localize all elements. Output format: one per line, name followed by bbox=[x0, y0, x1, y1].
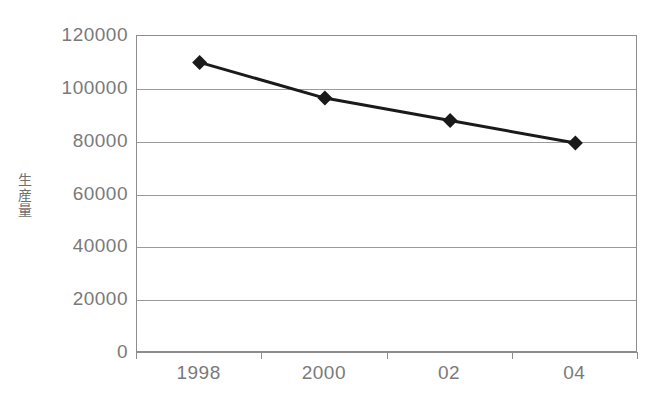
y-tick-label: 0 bbox=[28, 341, 128, 363]
y-tick-label: 100000 bbox=[28, 77, 128, 99]
y-axis-tick-labels: 020000400006000080000100000120000 bbox=[28, 0, 128, 412]
x-tick-mark bbox=[387, 352, 388, 359]
data-point-marker bbox=[192, 55, 207, 70]
y-tick-label: 20000 bbox=[28, 288, 128, 310]
data-point-marker bbox=[443, 113, 458, 128]
series-line-group bbox=[137, 36, 638, 353]
data-point-marker bbox=[568, 135, 583, 150]
data-point-marker bbox=[317, 91, 332, 106]
y-tick-label: 60000 bbox=[28, 183, 128, 205]
line-chart: 生産量 020000400006000080000100000120000 19… bbox=[0, 0, 660, 412]
x-tick-label: 02 bbox=[438, 362, 460, 384]
y-tick-label: 120000 bbox=[28, 24, 128, 46]
x-tick-label: 1998 bbox=[176, 362, 220, 384]
x-tick-mark bbox=[637, 352, 638, 359]
x-tick-label: 2000 bbox=[302, 362, 346, 384]
plot-area bbox=[136, 35, 637, 352]
x-tick-mark bbox=[512, 352, 513, 359]
y-tick-label: 80000 bbox=[28, 130, 128, 152]
series-line bbox=[200, 62, 576, 143]
y-tick-label: 40000 bbox=[28, 235, 128, 257]
x-tick-label: 04 bbox=[563, 362, 585, 384]
x-tick-mark bbox=[136, 352, 137, 359]
x-tick-mark bbox=[261, 352, 262, 359]
